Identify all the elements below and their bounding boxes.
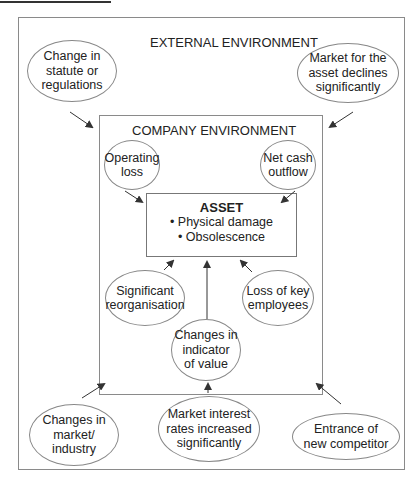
arrow-market-industry [82, 384, 104, 398]
arrows [0, 0, 420, 483]
arrow-competitor [317, 384, 341, 404]
arrow-net-cash-outflow [282, 191, 295, 202]
arrow-reorganisation [164, 261, 173, 270]
arrow-market-decline [330, 112, 353, 127]
arrow-operating-loss [125, 191, 142, 202]
arrow-key-employees [241, 261, 252, 272]
arrow-statute [70, 112, 92, 127]
